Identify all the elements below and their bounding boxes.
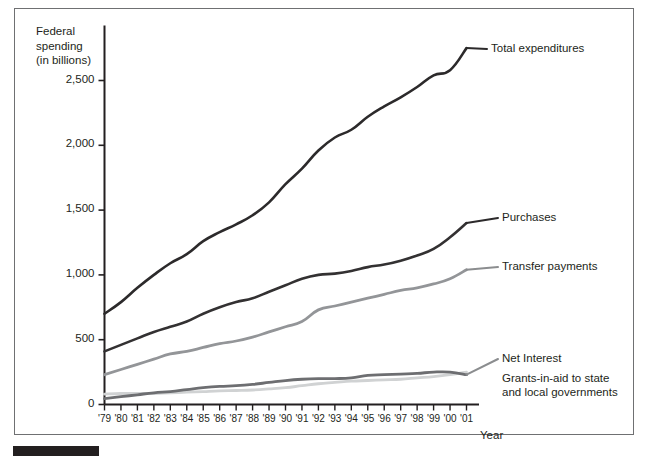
y-tick-label: 500 — [51, 332, 95, 344]
y-tick-label: 1,000 — [51, 267, 95, 279]
series-line-total-expenditures — [105, 48, 467, 314]
x-tick-label: '01 — [453, 413, 481, 424]
leader-line — [467, 267, 499, 270]
y-tick-label: 2,500 — [51, 73, 95, 85]
y-tick-label: 2,000 — [51, 137, 95, 149]
series-label-net-interest: Net Interest — [502, 352, 561, 366]
series-label-purchases: Purchases — [502, 211, 556, 225]
chart-figure: Federal spending (in billions) Year 0500… — [0, 0, 649, 462]
series-label-total-expenditures: Total expenditures — [491, 42, 584, 56]
series-line-grants-in-aid-to-state-and-local-governments — [105, 372, 467, 394]
x-axis-title: Year — [480, 428, 503, 443]
y-axis-title: Federal spending (in billions) — [36, 24, 91, 68]
bottom-black-bar — [13, 446, 99, 456]
leader-line — [467, 218, 499, 223]
series-line-purchases — [105, 223, 467, 351]
series-label-grants-in-aid-to-state-and-local-governments: Grants-in-aid to state and local governm… — [502, 372, 618, 399]
leader-line — [467, 359, 499, 375]
y-tick-label: 0 — [51, 397, 95, 409]
leader-line — [467, 48, 488, 49]
series-label-transfer-payments: Transfer payments — [502, 260, 597, 274]
y-tick-label: 1,500 — [51, 202, 95, 214]
